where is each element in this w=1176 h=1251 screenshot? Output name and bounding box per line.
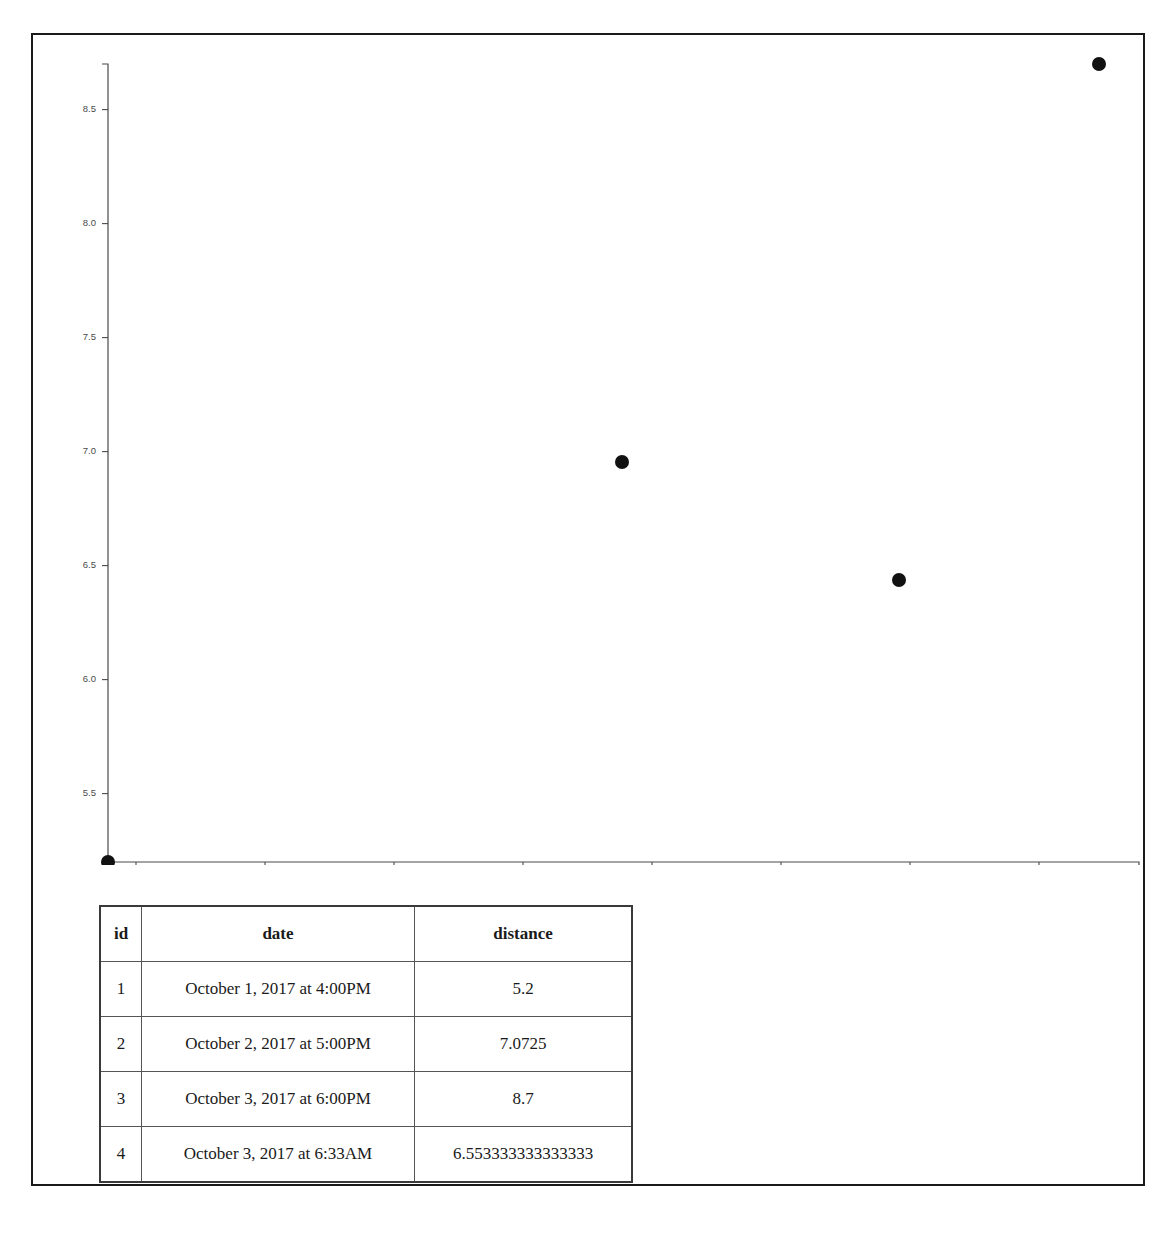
table-row: 2October 2, 2017 at 5:00PM7.0725 <box>100 1017 632 1072</box>
table-cell-distance: 8.7 <box>415 1072 633 1127</box>
table-cell-id: 4 <box>100 1127 142 1183</box>
y-tick-label: 7.0 <box>83 445 96 456</box>
y-axis: 5.56.06.57.07.58.08.5 <box>83 64 108 862</box>
document-frame: 5.56.06.57.07.58.08.5 06 PMMon 0206 AM12… <box>31 33 1145 1186</box>
x-axis: 06 PMMon 0206 AM12 PM06 PMTue 0306 AM12 … <box>108 862 1143 865</box>
table-cell-date: October 1, 2017 at 4:00PM <box>142 962 415 1017</box>
y-tick-label: 7.5 <box>83 331 96 342</box>
data-point <box>101 855 115 865</box>
column-header-id: id <box>100 906 142 962</box>
table-row: 3October 3, 2017 at 6:00PM8.7 <box>100 1072 632 1127</box>
table-row: 1October 1, 2017 at 4:00PM5.2 <box>100 962 632 1017</box>
y-tick-label: 8.5 <box>83 103 96 114</box>
data-table-container: id date distance 1October 1, 2017 at 4:0… <box>99 905 633 1183</box>
table-head: id date distance <box>100 906 632 962</box>
table-cell-date: October 2, 2017 at 5:00PM <box>142 1017 415 1072</box>
table-cell-id: 3 <box>100 1072 142 1127</box>
table-cell-id: 1 <box>100 962 142 1017</box>
table-cell-distance: 7.0725 <box>415 1017 633 1072</box>
column-header-distance: distance <box>415 906 633 962</box>
table-cell-distance: 5.2 <box>415 962 633 1017</box>
distance-records-table: id date distance 1October 1, 2017 at 4:0… <box>99 905 633 1183</box>
data-point <box>892 573 906 587</box>
y-tick-label: 8.0 <box>83 217 96 228</box>
table-body: 1October 1, 2017 at 4:00PM5.22October 2,… <box>100 962 632 1183</box>
table-row: 4October 3, 2017 at 6:33AM6.553333333333… <box>100 1127 632 1183</box>
column-header-date: date <box>142 906 415 962</box>
table-cell-distance: 6.553333333333333 <box>415 1127 633 1183</box>
table-cell-id: 2 <box>100 1017 142 1072</box>
table-header-row: id date distance <box>100 906 632 962</box>
scatter-chart: 5.56.06.57.07.58.08.5 06 PMMon 0206 AM12… <box>33 35 1143 865</box>
table-cell-date: October 3, 2017 at 6:33AM <box>142 1127 415 1183</box>
data-point <box>615 455 629 469</box>
data-points-layer <box>101 57 1106 865</box>
data-point <box>1092 57 1106 71</box>
y-tick-label: 5.5 <box>83 787 96 798</box>
chart-canvas: 5.56.06.57.07.58.08.5 06 PMMon 0206 AM12… <box>33 35 1143 865</box>
table-cell-date: October 3, 2017 at 6:00PM <box>142 1072 415 1127</box>
y-tick-label: 6.0 <box>83 673 96 684</box>
y-tick-label: 6.5 <box>83 559 96 570</box>
